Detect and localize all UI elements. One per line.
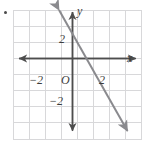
- y-tick-label-2: 2: [59, 33, 65, 45]
- coordinate-plane-figure: −2 2 O 2 −2 x y: [0, 0, 147, 145]
- y-tick-label-negative-2: −2: [49, 95, 63, 107]
- y-axis-label: y: [77, 5, 82, 17]
- x-tick-label-negative-2: −2: [29, 74, 43, 86]
- x-tick-label-2: 2: [99, 74, 105, 86]
- graph-canvas: [0, 0, 147, 145]
- origin-label: O: [61, 74, 70, 86]
- x-axis-label: x: [127, 52, 132, 64]
